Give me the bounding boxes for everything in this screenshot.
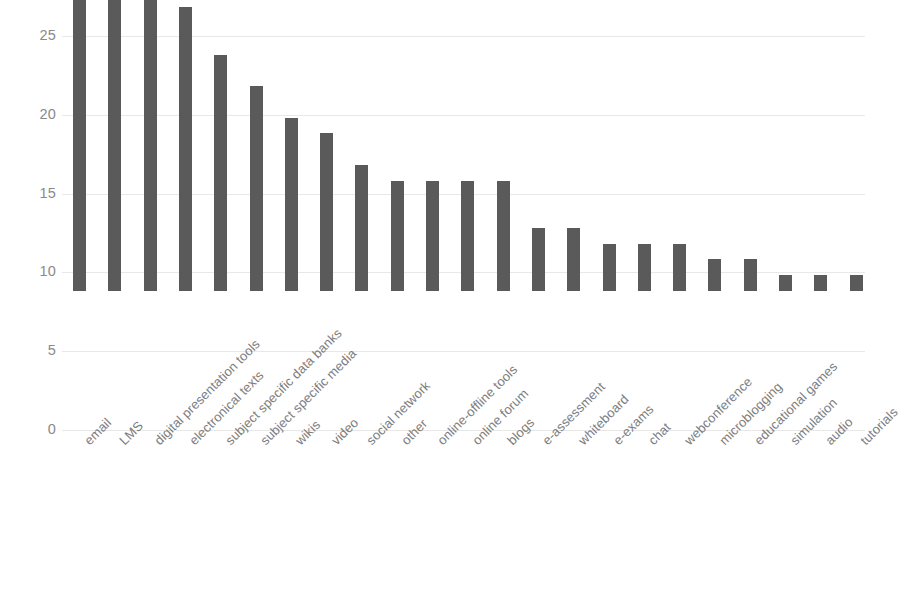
bar [426, 181, 439, 291]
bar [673, 244, 686, 291]
bar [814, 275, 827, 291]
bar [567, 228, 580, 291]
bar [779, 275, 792, 291]
bar [355, 165, 368, 291]
bar [850, 275, 863, 291]
bar [638, 244, 651, 291]
bar [532, 228, 545, 291]
bar [708, 259, 721, 291]
bar [285, 118, 298, 291]
bar [461, 181, 474, 291]
bar [108, 0, 121, 291]
bars-group [0, 0, 883, 470]
x-axis-tick-labels: emailLMSdigital presentation toolselectr… [0, 430, 883, 609]
bar [250, 86, 263, 291]
bar [603, 244, 616, 291]
bar [214, 55, 227, 291]
bar [320, 133, 333, 291]
bar [744, 259, 757, 291]
bar [144, 0, 157, 291]
bar [73, 0, 86, 291]
bar [391, 181, 404, 291]
bar [497, 181, 510, 291]
bar [179, 7, 192, 291]
